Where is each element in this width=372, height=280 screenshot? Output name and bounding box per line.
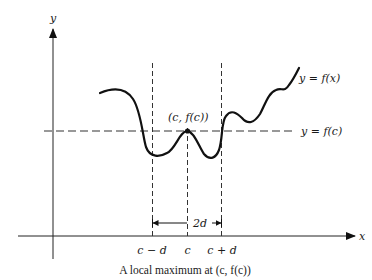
- tick-label-c-plus-d: c + d: [207, 244, 236, 257]
- interval-label: 2d: [192, 217, 207, 230]
- curve-label: y = f(x): [298, 72, 340, 85]
- tick-label-c: c: [184, 244, 190, 257]
- local-maximum-point: [185, 128, 190, 133]
- figure-caption: A local maximum at (c, f(c)): [119, 264, 251, 277]
- local-maximum-diagram: y x y = f(c) y = f(x) (c, f(c)) 2d c − d…: [0, 0, 372, 280]
- x-axis-label: x: [359, 230, 366, 243]
- point-label: (c, f(c)): [168, 111, 209, 124]
- horizontal-line-label: y = f(c): [300, 125, 342, 138]
- y-axis-label: y: [49, 12, 57, 25]
- tick-label-c-minus-d: c − d: [137, 244, 166, 257]
